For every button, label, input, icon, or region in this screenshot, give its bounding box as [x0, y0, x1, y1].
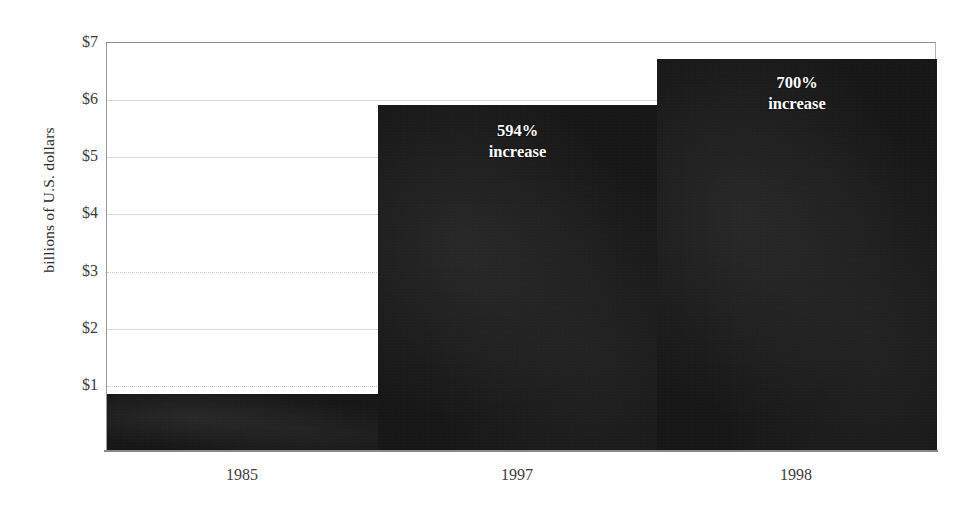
y-tick-4: $4	[52, 204, 98, 222]
bar-1985[interactable]	[107, 394, 379, 451]
bar-1997[interactable]: 594% increase	[378, 105, 658, 451]
bar-1998-annotation-line2: increase	[657, 94, 937, 115]
y-tick-3: $3	[52, 262, 98, 280]
cropped-title-strip	[0, 0, 958, 11]
plot-area: 594% increase 700% increase	[106, 42, 936, 451]
y-tick-6: $6	[52, 90, 98, 108]
y-tick-2: $2	[52, 319, 98, 337]
y-tick-1: $1	[52, 376, 98, 394]
x-tick-1985: 1985	[226, 466, 258, 484]
bar-1997-annotation-line1: 594%	[378, 121, 657, 142]
bar-1997-annotation: 594% increase	[378, 121, 657, 163]
x-axis-line	[104, 450, 938, 452]
x-tick-1998: 1998	[780, 466, 812, 484]
x-tick-1997: 1997	[501, 466, 533, 484]
bar-chart-figure: billions of U.S. dollars $7 $6 $5 $4 $3 …	[0, 0, 958, 508]
bar-1998-annotation: 700% increase	[657, 73, 937, 115]
y-tick-5: $5	[52, 147, 98, 165]
bar-1998[interactable]: 700% increase	[657, 59, 937, 451]
bar-1998-annotation-line1: 700%	[657, 73, 937, 94]
y-tick-7: $7	[52, 33, 98, 51]
bar-1997-annotation-line2: increase	[378, 142, 657, 163]
y-axis-tick-labels: $7 $6 $5 $4 $3 $2 $1	[46, 42, 98, 451]
x-axis-tick-labels: 1985 1997 1998	[106, 466, 936, 494]
